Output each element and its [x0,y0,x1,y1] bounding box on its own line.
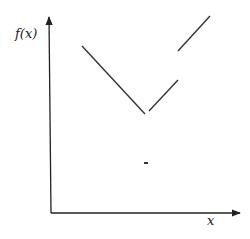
y-axis [49,17,51,213]
isolated-point [144,162,148,164]
right-increasing-segment [178,16,210,51]
left-decreasing-segment [82,46,145,114]
x-axis-label: x [207,214,214,227]
middle-increasing-segment [149,80,178,111]
y-axis-label: f(x) [15,27,37,40]
function-graph [0,0,250,239]
